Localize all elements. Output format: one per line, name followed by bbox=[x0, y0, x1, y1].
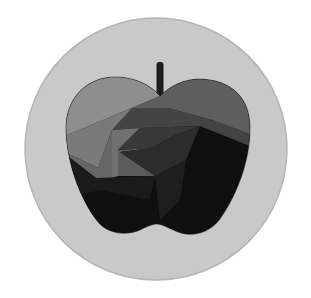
apple-emblem bbox=[0, 0, 311, 298]
apple-stem bbox=[157, 62, 164, 98]
